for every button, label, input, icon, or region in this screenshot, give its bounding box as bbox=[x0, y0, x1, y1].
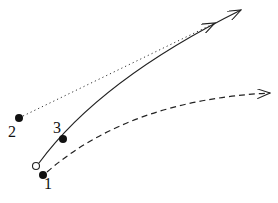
trajectory-diagram bbox=[0, 0, 278, 203]
point-3-marker bbox=[59, 135, 67, 143]
dashed-trajectory bbox=[47, 93, 270, 172]
dotted-trajectory bbox=[23, 23, 215, 116]
point-2-marker bbox=[15, 114, 23, 122]
diagram-canvas: 1 2 3 bbox=[0, 0, 278, 203]
label-point-2: 2 bbox=[8, 124, 16, 140]
label-point-1: 1 bbox=[44, 176, 52, 192]
solid-trajectory bbox=[39, 10, 241, 163]
label-point-3: 3 bbox=[53, 120, 61, 136]
origin-open-marker bbox=[33, 163, 40, 170]
